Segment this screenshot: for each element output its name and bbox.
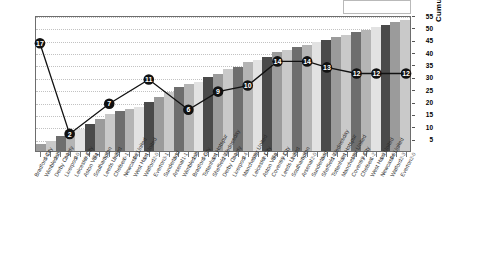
bar bbox=[272, 52, 282, 151]
y-tick-mark bbox=[412, 16, 415, 17]
bar bbox=[331, 37, 341, 151]
bar bbox=[371, 27, 381, 151]
y-tick-label: 45 bbox=[426, 37, 433, 44]
y-tick-mark bbox=[412, 53, 415, 54]
bar bbox=[174, 87, 184, 151]
y-tick-mark bbox=[412, 28, 415, 29]
bar bbox=[312, 42, 322, 151]
y-tick-mark bbox=[412, 90, 415, 91]
y-tick-mark bbox=[412, 127, 415, 128]
bar bbox=[321, 40, 331, 151]
bar bbox=[184, 84, 194, 151]
bar bbox=[292, 47, 302, 151]
y-tick-mark bbox=[412, 41, 415, 42]
bar bbox=[194, 82, 204, 151]
bar bbox=[56, 136, 66, 151]
bar bbox=[203, 77, 213, 151]
bar bbox=[400, 20, 410, 151]
x-axis-labels: 0-1Bradford City3-2Wimbledon3-1Derby Cou… bbox=[35, 158, 411, 254]
bar bbox=[125, 109, 135, 151]
plot-area bbox=[35, 16, 411, 152]
y-tick-mark bbox=[412, 78, 415, 79]
bar bbox=[75, 129, 85, 151]
bar bbox=[390, 22, 400, 151]
bar bbox=[381, 25, 391, 151]
y-tick-label: 30 bbox=[426, 74, 433, 81]
bar bbox=[302, 45, 312, 151]
y-tick-label: 40 bbox=[426, 50, 433, 57]
bar bbox=[115, 111, 125, 151]
bar bbox=[164, 92, 174, 151]
y-tick-mark bbox=[412, 140, 415, 141]
y-tick-label: 35 bbox=[426, 62, 433, 69]
y-tick-label: 25 bbox=[426, 87, 433, 94]
bar bbox=[282, 50, 292, 151]
bar bbox=[243, 62, 253, 151]
y-tick-label: 50 bbox=[426, 25, 433, 32]
legend-box bbox=[343, 0, 411, 14]
bar-series bbox=[36, 17, 410, 151]
y-axis-title: Cumulative Points bbox=[434, 0, 443, 22]
y-tick-mark bbox=[412, 65, 415, 66]
bar bbox=[95, 119, 105, 151]
chart-container: 1727116910141413121212 51015202530354045… bbox=[0, 0, 478, 255]
y-tick-label: 5 bbox=[429, 136, 433, 143]
y-tick-mark bbox=[412, 115, 415, 116]
y-tick-label: 55 bbox=[426, 13, 433, 20]
y-tick-mark bbox=[412, 103, 415, 104]
bar bbox=[36, 144, 46, 151]
y-tick-label: 10 bbox=[426, 124, 433, 131]
y-axis: 510152025303540455055 bbox=[412, 10, 434, 158]
y-tick-label: 15 bbox=[426, 111, 433, 118]
y-tick-label: 20 bbox=[426, 99, 433, 106]
